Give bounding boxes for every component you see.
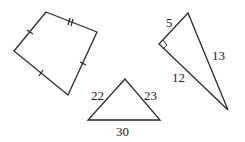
- side-label-short-leg: 5: [166, 15, 173, 30]
- tick-mark: [39, 70, 43, 76]
- geometry-diagram: 22 23 30 5 12 13: [0, 0, 245, 142]
- side-label-hypotenuse: 13: [212, 48, 225, 63]
- right-triangle: 5 12 13: [159, 13, 228, 110]
- quadrilateral: [14, 12, 97, 95]
- side-label-right: 23: [144, 88, 157, 103]
- side-label-left: 22: [91, 88, 104, 103]
- side-label-long-leg: 12: [172, 70, 185, 85]
- side-label-base: 30: [116, 124, 129, 139]
- bottom-triangle: 22 23 30: [88, 79, 160, 139]
